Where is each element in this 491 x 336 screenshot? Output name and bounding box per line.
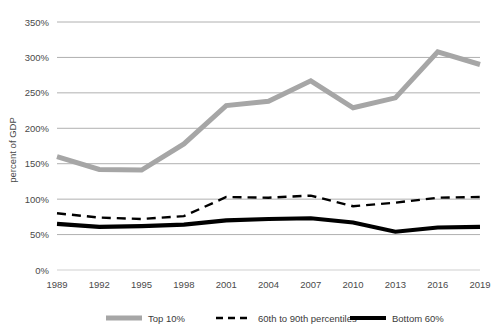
- y-tick-label: 50%: [30, 229, 50, 240]
- gridlines-group: [57, 22, 480, 270]
- legend-label-top-10[interactable]: Top 10%: [148, 313, 186, 324]
- y-tick-label: 350%: [25, 17, 50, 28]
- x-tick-label: 2001: [216, 279, 237, 290]
- series-line-bottom-60: [57, 218, 480, 231]
- x-axis-tick-labels: 1989199219951998200120042007201020132016…: [46, 279, 490, 290]
- chart-container: 0%50%100%150%200%250%300%350% 1989199219…: [0, 0, 491, 336]
- y-tick-label: 200%: [25, 123, 50, 134]
- x-tick-label: 2007: [300, 279, 321, 290]
- chart-legend: Top 10%60th to 90th percentilesBottom 60…: [106, 313, 444, 324]
- y-axis-title: percent of GDP: [7, 117, 18, 182]
- y-tick-label: 150%: [25, 158, 50, 169]
- x-tick-label: 2016: [427, 279, 448, 290]
- legend-label-60th-to-90th-percentiles[interactable]: 60th to 90th percentiles: [258, 313, 357, 324]
- x-tick-label: 1995: [131, 279, 152, 290]
- x-tick-label: 2010: [343, 279, 364, 290]
- data-series-group: [57, 52, 480, 232]
- legend-label-bottom-60[interactable]: Bottom 60%: [392, 313, 444, 324]
- x-tick-label: 2019: [469, 279, 490, 290]
- y-tick-label: 300%: [25, 52, 50, 63]
- x-tick-label: 2004: [258, 279, 279, 290]
- x-tick-label: 2013: [385, 279, 406, 290]
- gdp-share-line-chart: 0%50%100%150%200%250%300%350% 1989199219…: [0, 0, 491, 336]
- x-tick-label: 1998: [173, 279, 194, 290]
- y-tick-label: 250%: [25, 87, 50, 98]
- y-tick-label: 100%: [25, 194, 50, 205]
- x-tick-label: 1989: [46, 279, 67, 290]
- y-tick-label: 0%: [35, 265, 49, 276]
- y-axis-tick-labels: 0%50%100%150%200%250%300%350%: [25, 17, 50, 276]
- x-tick-label: 1992: [89, 279, 110, 290]
- series-line-top-10: [57, 52, 480, 170]
